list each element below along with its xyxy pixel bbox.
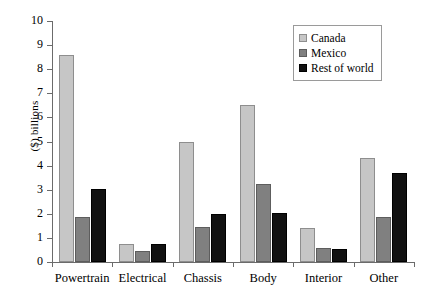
y-axis-tick-label: 4 xyxy=(37,158,43,172)
bar-rest-of-world-body xyxy=(272,213,287,262)
legend-swatch-icon xyxy=(299,64,307,72)
bar-mexico-electrical xyxy=(135,251,150,262)
y-axis-tick-label: 10 xyxy=(31,13,43,27)
x-axis-category-label: Chassis xyxy=(173,271,233,286)
bar-group xyxy=(112,21,172,262)
bar-rest-of-world-electrical xyxy=(151,244,166,262)
bar-rest-of-world-chassis xyxy=(211,214,226,262)
y-axis-tick-label: 1 xyxy=(37,230,43,244)
legend-item: Mexico xyxy=(299,46,374,60)
y-axis-tick-label: 2 xyxy=(37,206,43,220)
bar-canada-interior xyxy=(300,228,315,262)
x-axis-tick-mark xyxy=(293,262,294,267)
bar-group xyxy=(233,21,293,262)
x-axis-tick-mark xyxy=(112,262,113,267)
bar-group xyxy=(173,21,233,262)
bar-canada-electrical xyxy=(119,244,134,262)
x-axis-tick-mark xyxy=(354,262,355,267)
x-axis-category-label: Electrical xyxy=(112,271,172,286)
chart-legend: CanadaMexicoRest of world xyxy=(293,25,382,81)
y-axis-tick-label: 5 xyxy=(37,134,43,148)
bar-canada-body xyxy=(240,105,255,262)
y-axis-tick-label: 0 xyxy=(37,254,43,268)
bar-mexico-powertrain xyxy=(75,217,90,262)
legend-item: Rest of world xyxy=(299,61,374,75)
x-axis-tick-mark xyxy=(414,262,415,267)
bar-mexico-interior xyxy=(316,248,331,262)
bar-rest-of-world-other xyxy=(392,173,407,262)
bar-canada-powertrain xyxy=(59,55,74,262)
y-axis-tick-label: 3 xyxy=(37,182,43,196)
bar-mexico-chassis xyxy=(195,227,210,262)
x-axis-category-label: Body xyxy=(233,271,293,286)
bar-group xyxy=(52,21,112,262)
y-axis-tick-label: 8 xyxy=(37,61,43,75)
y-axis-tick-label: 7 xyxy=(37,85,43,99)
x-axis-tick-mark xyxy=(233,262,234,267)
legend-item-label: Rest of world xyxy=(311,62,374,74)
x-axis-category-label: Powertrain xyxy=(52,271,112,286)
bar-rest-of-world-powertrain xyxy=(91,189,106,263)
legend-swatch-icon xyxy=(299,49,307,57)
bar-mexico-other xyxy=(376,217,391,262)
legend-item: Canada xyxy=(299,31,374,45)
y-axis-tick-label: 6 xyxy=(37,109,43,123)
bar-canada-other xyxy=(360,158,375,262)
legend-item-label: Mexico xyxy=(311,47,346,59)
x-axis-category-label: Interior xyxy=(293,271,353,286)
x-axis-tick-mark xyxy=(52,262,53,267)
y-axis-tick-label: 9 xyxy=(37,37,43,51)
bar-chart: ($) billions 012345678910 PowertrainElec… xyxy=(0,0,423,297)
legend-swatch-icon xyxy=(299,34,307,42)
legend-item-label: Canada xyxy=(311,32,345,44)
x-axis-category-label: Other xyxy=(354,271,414,286)
x-axis-tick-mark xyxy=(173,262,174,267)
bar-mexico-body xyxy=(256,184,271,262)
bar-canada-chassis xyxy=(179,142,194,263)
bar-rest-of-world-interior xyxy=(332,249,347,262)
